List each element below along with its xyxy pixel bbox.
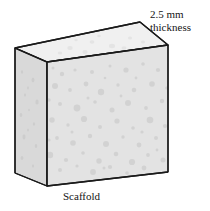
pore [121, 135, 124, 138]
pore [60, 72, 64, 76]
scaffold-caption: Scaffold [63, 190, 100, 203]
pore [141, 41, 145, 44]
pore [81, 151, 85, 155]
pore [114, 118, 119, 123]
pore [74, 39, 77, 41]
pore [73, 68, 76, 71]
pore [110, 108, 115, 113]
pore [21, 156, 24, 160]
pore [160, 99, 164, 103]
thickness-word-label: thickness [150, 21, 191, 34]
thickness-annotation: 2.5 mm thickness [150, 8, 191, 33]
pore [108, 165, 112, 169]
pore [149, 81, 155, 87]
pore [135, 77, 138, 80]
pore [75, 164, 78, 167]
pore [88, 134, 92, 138]
pore [35, 100, 38, 105]
scaffold-figure: 2.5 mm thickness Scaffold [0, 0, 210, 211]
pore [122, 46, 127, 50]
pore [96, 158, 101, 163]
pore [128, 37, 132, 40]
pore [109, 44, 115, 48]
pore [98, 89, 104, 95]
pore [140, 130, 143, 133]
pore [67, 46, 72, 50]
pore [103, 167, 106, 170]
pore [35, 144, 37, 148]
pore [125, 171, 129, 175]
pore [52, 67, 55, 70]
pore [116, 83, 119, 86]
pore [131, 126, 135, 130]
pore [33, 122, 35, 125]
pore [146, 153, 150, 157]
pore [81, 116, 87, 122]
pore [27, 129, 29, 132]
pore [90, 70, 94, 74]
pore [129, 159, 135, 165]
pore [47, 152, 53, 158]
pore [154, 136, 158, 140]
pore [32, 78, 35, 82]
pore [70, 140, 76, 146]
pore [120, 95, 123, 98]
pore [68, 88, 72, 92]
pore [147, 117, 154, 124]
pore [74, 105, 81, 112]
pore [24, 93, 26, 96]
pore [97, 35, 101, 38]
pore [141, 62, 145, 66]
pore [103, 141, 109, 147]
thickness-value-label: 2.5 mm [150, 8, 191, 21]
pore [132, 88, 137, 93]
pore [163, 124, 167, 128]
pore [47, 138, 50, 141]
pore [156, 149, 159, 152]
pore [109, 65, 112, 68]
pore [82, 50, 87, 54]
pore [98, 125, 102, 129]
pore [58, 102, 62, 106]
pore [114, 152, 119, 157]
pore [66, 123, 69, 126]
pore [137, 143, 142, 148]
pore [58, 168, 62, 172]
pore [93, 100, 97, 104]
pore [123, 67, 128, 72]
pore [71, 131, 74, 134]
pore [142, 166, 147, 171]
pore [58, 51, 62, 54]
pore [87, 97, 90, 100]
pore [84, 82, 89, 87]
block-left-face [15, 48, 47, 186]
pore [156, 68, 160, 72]
pore [21, 70, 23, 74]
pore [90, 40, 95, 43]
pore [161, 158, 166, 163]
pore [27, 87, 29, 90]
pore [52, 83, 58, 89]
pore [28, 109, 30, 112]
pore [20, 113, 22, 117]
pore [125, 100, 131, 106]
pore [144, 106, 148, 110]
pore [47, 98, 50, 101]
pore [55, 136, 59, 140]
pore [90, 169, 96, 175]
pore [23, 135, 26, 140]
pore [32, 164, 34, 167]
pore [49, 117, 54, 122]
block-front-face [47, 45, 169, 186]
pore [104, 77, 107, 80]
pore [64, 158, 68, 162]
